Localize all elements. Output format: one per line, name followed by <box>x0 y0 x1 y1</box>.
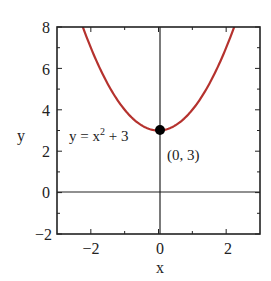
vertex-point-label: (0, 3) <box>167 147 200 164</box>
x-axis-label: x <box>156 259 164 276</box>
curve-equation-tail: + 3 <box>105 128 128 144</box>
curve-equation-label: y = x2 + 3 <box>69 126 128 144</box>
vertex-point <box>155 125 165 135</box>
xtick-label-m2: −2 <box>82 240 99 257</box>
chart-canvas: 8 6 4 2 0 −2 −2 0 2 x y y = x2 + 3 (0, 3… <box>0 0 271 281</box>
curve-equation-main: y = x <box>69 128 100 144</box>
parabola-curve <box>74 1 243 130</box>
xtick-label-0: 0 <box>156 240 164 257</box>
ytick-label-6: 6 <box>42 61 50 78</box>
ytick-label-8: 8 <box>42 19 50 36</box>
ytick-label-4: 4 <box>42 102 50 119</box>
xtick-label-2: 2 <box>224 240 232 257</box>
ytick-label-0: 0 <box>42 184 50 201</box>
ytick-label-m2: −2 <box>35 226 52 243</box>
y-axis-label: y <box>17 127 25 145</box>
ytick-label-2: 2 <box>42 143 50 160</box>
